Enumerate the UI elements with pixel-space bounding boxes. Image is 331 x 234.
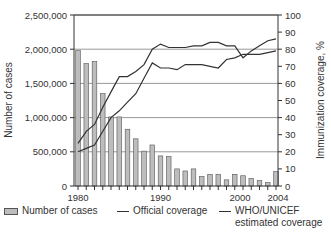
bar <box>166 157 171 186</box>
legend-item-official: Official coverage <box>117 205 207 217</box>
right-tick-label: 100 <box>285 10 301 21</box>
coverage-lines <box>78 39 276 152</box>
line-who-unicef-coverage <box>78 51 276 152</box>
legend-item-who: WHO/UNICEF estimated coverage <box>219 205 322 229</box>
bar <box>76 51 81 186</box>
bar <box>265 183 270 186</box>
bar <box>199 176 204 186</box>
bar <box>241 176 246 186</box>
legend-label-cases: Number of cases <box>22 205 98 217</box>
bar <box>175 169 180 186</box>
bar <box>232 174 237 186</box>
bar <box>249 178 254 186</box>
right-tick-label: 20 <box>285 146 296 157</box>
bars-number-of-cases <box>76 51 279 186</box>
right-tick-label: 50 <box>285 95 296 106</box>
bar <box>125 129 130 186</box>
left-tick-label: 0 <box>62 181 67 192</box>
legend-label-who-line1: WHO/UNICEF <box>235 205 299 216</box>
bar <box>84 64 89 186</box>
left-tick-label: 2,500,000 <box>25 10 67 21</box>
right-tick-label: 10 <box>285 163 296 174</box>
bar <box>117 117 122 186</box>
bar <box>150 145 155 186</box>
right-axis-title: Immunization coverage, % <box>315 41 326 159</box>
left-tick-label: 1,500,000 <box>25 78 67 89</box>
right-tick-label: 30 <box>285 129 296 140</box>
left-tick-label: 1,000,000 <box>25 112 67 123</box>
line-swatch-icon <box>219 211 231 212</box>
bar-swatch-icon <box>4 208 18 215</box>
line-swatch-icon <box>117 211 129 212</box>
bar <box>216 174 221 186</box>
right-tick-label: 70 <box>285 61 296 72</box>
left-tick-label: 2,000,000 <box>25 44 67 55</box>
bar <box>142 151 147 186</box>
legend-label-who-line2: estimated coverage <box>235 217 322 228</box>
legend-label-who: WHO/UNICEF estimated coverage <box>235 205 322 229</box>
right-tick-label: 0 <box>285 181 290 192</box>
bar <box>208 174 213 186</box>
bar <box>191 169 196 186</box>
x-tick-label: 1990 <box>150 192 171 203</box>
right-tick-label: 90 <box>285 27 296 38</box>
left-tick-label: 500,000 <box>33 146 67 157</box>
right-tick-label: 40 <box>285 112 296 123</box>
bar <box>158 156 163 186</box>
legend-label-official: Official coverage <box>133 205 207 217</box>
legend-item-cases: Number of cases <box>4 205 98 217</box>
right-tick-label: 80 <box>285 44 296 55</box>
legend: Number of cases Official coverage WHO/UN… <box>4 205 331 234</box>
bar <box>224 180 229 186</box>
x-tick-label: 2000 <box>229 192 250 203</box>
left-axis-title: Number of cases <box>3 62 14 138</box>
x-tick-label: 1980 <box>67 192 88 203</box>
bar <box>133 139 138 186</box>
bar <box>183 171 188 186</box>
x-tick-label: 2004 <box>267 192 288 203</box>
right-tick-label: 60 <box>285 78 296 89</box>
bar <box>257 181 262 186</box>
chart: 0500,0001,000,0001,500,0002,000,0002,500… <box>0 0 331 234</box>
bar <box>109 117 114 186</box>
